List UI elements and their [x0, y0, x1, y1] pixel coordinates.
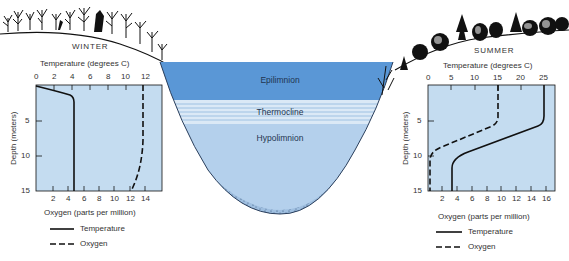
winter-y-axis-title: Depth (meters): [9, 112, 18, 165]
thermocline-label: Thermocline: [240, 107, 320, 117]
winter-bottom-tick: 2: [51, 194, 55, 203]
summer-legend-temperature: Temperature: [468, 227, 513, 236]
summer-top-tick: 20: [516, 73, 525, 82]
winter-bottom-tick: 12: [126, 194, 135, 203]
summer-title: SUMMER: [474, 46, 514, 55]
summer-bottom-tick: 16: [542, 194, 551, 203]
winter-y-tick: 15: [21, 186, 30, 195]
winter-bottom-tick: 6: [82, 194, 86, 203]
winter-bottom-tick: 8: [97, 194, 101, 203]
winter-bottom-tick: 4: [66, 194, 70, 203]
winter-top-tick: 4: [70, 72, 74, 81]
summer-y-axis-title: Depth (meters): [401, 112, 410, 165]
summer-plot-area: [428, 85, 555, 191]
winter-plot-area: [36, 85, 162, 191]
winter-title: WINTER: [72, 42, 108, 51]
summer-bottom-tick: 14: [527, 194, 536, 203]
summer-top-tick: 15: [493, 73, 502, 82]
summer-top-tick: 0: [426, 73, 430, 82]
summer-bottom-tick: 10: [497, 194, 506, 203]
winter-top-tick: 8: [106, 72, 110, 81]
summer-bottom-tick: 12: [512, 194, 521, 203]
winter-top-tick: 6: [88, 72, 92, 81]
winter-top-tick: 0: [34, 72, 38, 81]
winter-bottom-axis-title: Oxygen (parts per million): [44, 208, 136, 217]
epilimnion-label: Epilimnion: [240, 75, 320, 85]
winter-bottom-tick: 14: [141, 194, 150, 203]
summer-y-tick: 5: [417, 116, 421, 125]
winter-top-tick: 10: [121, 72, 130, 81]
winter-top-tick: 12: [141, 72, 150, 81]
summer-top-tick: 25: [539, 73, 548, 82]
summer-bottom-tick: 2: [440, 194, 444, 203]
winter-top-tick: 2: [52, 72, 56, 81]
hypolimnion-label: Hypolimnion: [240, 133, 320, 143]
winter-top-axis-title: Temperature (degrees C): [40, 59, 129, 68]
summer-legend-oxygen: Oxygen: [468, 242, 496, 251]
summer-bottom-tick: 4: [455, 194, 459, 203]
winter-legend-temperature: Temperature: [80, 224, 125, 233]
winter-legend-oxygen: Oxygen: [80, 239, 108, 248]
summer-top-tick: 10: [470, 73, 479, 82]
summer-top-tick: 5: [449, 73, 453, 82]
summer-top-axis-title: Temperature (degrees C): [443, 61, 532, 70]
lake: [150, 62, 410, 224]
summer-bottom-tick: 6: [470, 194, 474, 203]
winter-y-tick: 10: [21, 151, 30, 160]
landscape-illustration: [0, 0, 569, 261]
summer-y-tick: 10: [413, 151, 422, 160]
summer-y-tick: 15: [413, 186, 422, 195]
winter-y-tick: 5: [25, 116, 29, 125]
winter-bottom-tick: 10: [110, 194, 119, 203]
summer-bottom-tick: 8: [485, 194, 489, 203]
summer-bottom-axis-title: Oxygen (parts per million): [438, 212, 530, 221]
